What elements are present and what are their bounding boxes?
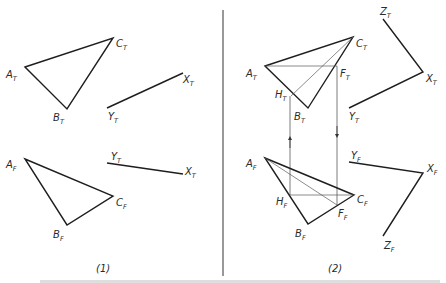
label-y-t-2: YT — [349, 111, 360, 125]
label-h-t: HT — [275, 89, 288, 103]
label-a-f: AF — [5, 159, 17, 173]
label-a-f-2: AF — [245, 158, 257, 172]
label-x-f: XF — [426, 163, 438, 177]
label-y-t-front: YT — [111, 151, 122, 165]
label-x-t-front: XT — [184, 166, 197, 180]
panel-1-label: (1) — [96, 263, 110, 274]
line-xy-top-view — [107, 73, 183, 108]
triangle-front-view — [25, 159, 113, 225]
label-c-t: CT — [116, 38, 128, 52]
label-c-t-2: CT — [356, 38, 368, 52]
label-c-f-2: CF — [357, 194, 368, 208]
label-z-t: ZT — [379, 6, 392, 20]
panel-2-label: (2) — [328, 263, 342, 274]
panel-1: AT CT BT YT XT AF CF BF YT XT (1) — [5, 38, 197, 274]
label-f-f: FF — [338, 208, 348, 222]
label-x-t: XT — [182, 74, 195, 88]
label-b-f: BF — [53, 229, 64, 243]
label-b-f-2: BF — [295, 228, 306, 242]
label-b-t-2: BT — [294, 111, 306, 125]
label-f-t: FT — [340, 68, 351, 82]
label-z-f: ZF — [383, 240, 395, 254]
panel-2: AT CT FT HT BT ZT XT YT AF CF HF FF BF Y… — [245, 6, 438, 274]
label-x-t-2: XT — [425, 73, 438, 87]
label-y-t: YT — [108, 111, 119, 125]
axes-top-view — [349, 19, 423, 108]
label-a-t-2: AT — [245, 68, 258, 82]
label-h-f: HF — [276, 196, 288, 210]
label-c-f: CF — [116, 197, 127, 211]
orthographic-projection-figure: AT CT BT YT XT AF CF BF YT XT (1) AT CT … — [0, 0, 446, 283]
triangle-top-view — [25, 38, 113, 109]
label-a-t: AT — [5, 69, 18, 83]
label-b-t: BT — [53, 112, 65, 126]
